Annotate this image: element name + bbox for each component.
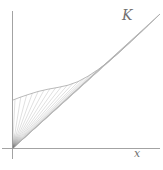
x-axis-label: x <box>134 148 140 159</box>
curve-K <box>13 14 160 100</box>
ray-line <box>13 14 161 149</box>
envelope-diagram <box>0 0 163 170</box>
curve-label: K <box>122 8 132 22</box>
figure-canvas: K x <box>0 0 163 170</box>
rays-group <box>13 14 161 149</box>
